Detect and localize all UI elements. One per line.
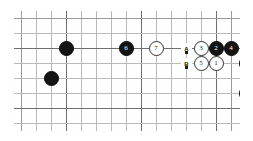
point-label-a-marker: [185, 51, 188, 54]
stone-black-4[interactable]: 4: [224, 41, 239, 56]
grid-line-vertical: [186, 11, 187, 131]
stone-black-6[interactable]: 6: [119, 41, 134, 56]
grid-line-vertical: [231, 11, 232, 131]
stone-black-4-number: 4: [229, 45, 233, 52]
stone-black-plain-3[interactable]: [239, 56, 241, 71]
stone-black-8[interactable]: 8: [239, 86, 241, 101]
go-diagram-screenshot: AB 67324518: [0, 0, 253, 141]
stone-black-plain-1[interactable]: [59, 41, 74, 56]
grid-line-vertical: [201, 11, 202, 131]
grid-line-vertical: [66, 11, 67, 131]
stone-black-6-number: 6: [124, 45, 128, 52]
grid-line-horizontal: [14, 108, 240, 109]
grid-line-vertical: [111, 11, 112, 131]
stone-white-5[interactable]: 5: [194, 56, 209, 71]
stone-white-1-number: 1: [214, 60, 218, 67]
stone-white-3[interactable]: 3: [194, 41, 209, 56]
stone-white-7[interactable]: 7: [149, 41, 164, 56]
grid-line-vertical: [36, 11, 37, 131]
grid-line-vertical: [21, 11, 22, 131]
stone-black-plain-2[interactable]: [44, 71, 59, 86]
grid-line-vertical: [156, 11, 157, 131]
grid-line-vertical: [171, 11, 172, 131]
grid-line-vertical: [216, 11, 217, 131]
grid-line-vertical: [96, 11, 97, 131]
stone-white-5-number: 5: [199, 60, 203, 67]
grid-line-horizontal: [14, 123, 240, 124]
point-label-b-marker: [185, 66, 188, 69]
stone-black-2-number: 2: [214, 45, 218, 52]
grid-line-vertical: [126, 11, 127, 131]
stone-white-1[interactable]: 1: [209, 56, 224, 71]
grid-line-horizontal: [14, 33, 240, 34]
go-board[interactable]: AB 67324518: [14, 11, 240, 131]
stone-black-2[interactable]: 2: [209, 41, 224, 56]
grid-line-vertical: [141, 11, 142, 131]
stone-white-7-number: 7: [154, 45, 158, 52]
stone-white-3-number: 3: [199, 45, 203, 52]
grid-line-horizontal: [14, 93, 240, 94]
grid-line-vertical: [81, 11, 82, 131]
grid-line-horizontal: [14, 18, 240, 19]
